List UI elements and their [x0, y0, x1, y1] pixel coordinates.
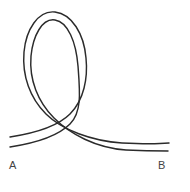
endpoint-label-a: A [9, 160, 17, 171]
endpoint-label-b: B [158, 160, 166, 171]
figure-canvas: A B [0, 0, 190, 192]
